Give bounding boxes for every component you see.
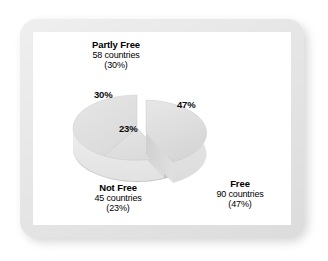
callout-not-free: Not Free 45 countries (23%) bbox=[63, 182, 173, 214]
slice-label-not-free: 23% bbox=[119, 123, 137, 134]
callout-partly-free-percent: (30%) bbox=[61, 60, 171, 70]
callout-not-free-count: 45 countries bbox=[63, 193, 173, 203]
callout-partly-free-count: 58 countries bbox=[61, 50, 171, 60]
callout-free-count: 90 countries bbox=[185, 189, 295, 199]
figure-root: 30% 23% 47% Partly Free 58 countries (30… bbox=[0, 0, 328, 261]
callout-free: Free 90 countries (47%) bbox=[185, 178, 295, 210]
callout-not-free-percent: (23%) bbox=[63, 203, 173, 213]
callout-not-free-category: Not Free bbox=[63, 182, 173, 193]
pie-chart: 30% 23% 47% Partly Free 58 countries (30… bbox=[33, 32, 291, 225]
slice-label-partly-free: 30% bbox=[94, 89, 112, 100]
callout-free-percent: (47%) bbox=[185, 199, 295, 209]
callout-partly-free-category: Partly Free bbox=[61, 39, 171, 50]
slice-label-free: 47% bbox=[177, 99, 195, 110]
callout-partly-free: Partly Free 58 countries (30%) bbox=[61, 39, 171, 71]
callout-free-category: Free bbox=[185, 178, 295, 189]
